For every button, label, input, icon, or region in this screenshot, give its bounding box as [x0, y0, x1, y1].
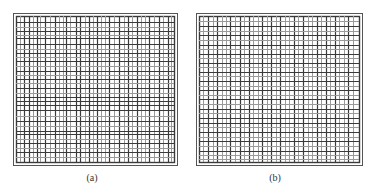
mesh-grid-b [0, 0, 375, 192]
caption-b: (b) [255, 172, 295, 183]
outer-border [197, 14, 363, 166]
